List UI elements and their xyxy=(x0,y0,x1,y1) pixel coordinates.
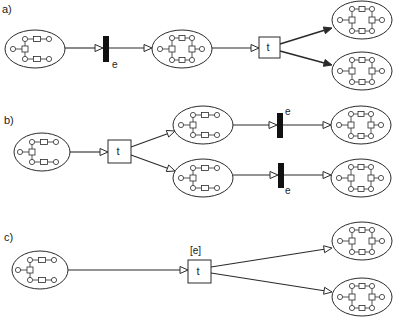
place-node xyxy=(169,35,174,40)
place-node xyxy=(178,122,183,127)
place-node xyxy=(189,35,194,40)
place-node xyxy=(368,186,373,191)
place-node xyxy=(337,68,342,73)
panel-label: c) xyxy=(4,232,13,243)
place-node xyxy=(336,175,341,180)
event-bar-transition xyxy=(103,36,109,62)
place-node xyxy=(368,111,373,116)
transition-node xyxy=(202,166,209,171)
transition-node xyxy=(349,294,355,300)
place-node xyxy=(349,249,354,254)
place-node xyxy=(378,175,383,180)
transition-node xyxy=(189,46,195,52)
transition-node xyxy=(369,294,375,300)
arrowhead-icon xyxy=(251,45,259,52)
place-node xyxy=(189,57,194,62)
subnet-a-src xyxy=(5,30,65,68)
transition-node xyxy=(348,175,354,181)
place-node xyxy=(190,132,195,137)
place-node xyxy=(157,46,162,51)
place-node xyxy=(348,133,353,138)
place-node xyxy=(369,249,374,254)
transition-node xyxy=(179,58,185,63)
arrowhead-icon xyxy=(270,172,278,179)
event-bar-transition xyxy=(278,163,284,188)
place-node xyxy=(214,112,219,117)
place-node xyxy=(369,283,374,288)
place-node xyxy=(379,17,384,22)
event-label: e xyxy=(285,186,291,196)
arc-line xyxy=(131,134,167,147)
place-node xyxy=(190,165,195,170)
transition-node xyxy=(27,267,33,273)
place-node xyxy=(337,17,342,22)
transition-node xyxy=(39,278,46,283)
place-node xyxy=(369,6,374,11)
transition-node xyxy=(29,149,35,155)
place-node xyxy=(337,294,342,299)
arrowhead-icon xyxy=(324,246,332,253)
transition-node xyxy=(359,58,365,63)
transition-node xyxy=(359,7,365,12)
place-node xyxy=(53,139,58,144)
place-node xyxy=(190,185,195,190)
arrowhead-icon xyxy=(95,45,103,52)
place-node xyxy=(348,111,353,116)
transition-node xyxy=(358,165,364,170)
place-node xyxy=(10,46,15,51)
place-node xyxy=(46,36,51,41)
place-node xyxy=(369,79,374,84)
place-node xyxy=(51,257,56,262)
arc-line xyxy=(211,273,324,291)
transition-node xyxy=(349,68,355,74)
place-node xyxy=(337,238,342,243)
subnet-a-out1 xyxy=(332,1,392,39)
place-node xyxy=(379,294,384,299)
transition-node xyxy=(41,160,48,165)
arrowhead-icon xyxy=(144,45,152,52)
place-node xyxy=(349,57,354,62)
place-node xyxy=(368,164,373,169)
transition-node xyxy=(39,258,46,263)
transition-node xyxy=(369,17,375,23)
subnet-c-out1 xyxy=(332,222,392,260)
transition-node xyxy=(358,187,364,192)
place-node xyxy=(53,159,58,164)
arrowhead-icon xyxy=(166,165,175,172)
place-node xyxy=(29,159,34,164)
subnet-b-out1 xyxy=(331,106,391,144)
place-node xyxy=(349,79,354,84)
place-node xyxy=(379,68,384,73)
arrowhead-icon xyxy=(180,267,188,274)
transition-node xyxy=(202,186,209,191)
place-node xyxy=(169,57,174,62)
place-node xyxy=(51,277,56,282)
place-node xyxy=(27,277,32,282)
place-node xyxy=(214,165,219,170)
panel-c xyxy=(12,222,392,316)
subnet-b-mid1 xyxy=(173,106,233,144)
petri-net-diagram: a)etb)teec)t[e] xyxy=(0,0,400,324)
arrowhead-icon xyxy=(269,122,277,129)
place-node xyxy=(214,185,219,190)
place-node xyxy=(349,305,354,310)
place-node xyxy=(199,46,204,51)
subnet-c-src xyxy=(12,251,68,289)
subnet-a-mid xyxy=(152,30,212,68)
transition-node xyxy=(359,250,365,255)
panel-a xyxy=(5,1,392,90)
transition-label: t xyxy=(267,42,270,53)
transition-node xyxy=(202,113,209,118)
place-node xyxy=(378,122,383,127)
subnet-c-out2 xyxy=(332,278,392,316)
transition-node xyxy=(368,122,374,128)
place-node xyxy=(349,227,354,232)
subnet-b-src xyxy=(14,133,70,171)
arrowhead-icon xyxy=(323,172,331,179)
place-node xyxy=(348,164,353,169)
place-node xyxy=(29,139,34,144)
place-node xyxy=(369,227,374,232)
place-node xyxy=(349,283,354,288)
transition-node xyxy=(349,238,355,244)
arc-line xyxy=(211,249,324,267)
